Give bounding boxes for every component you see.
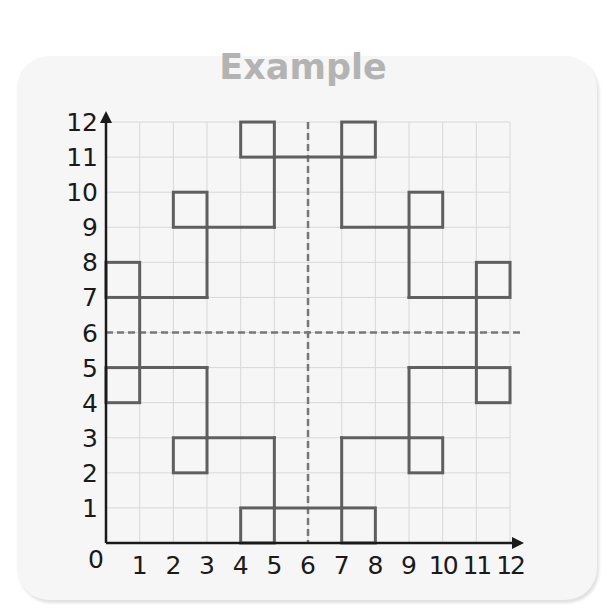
shape-square (476, 262, 510, 297)
x-tick-label: 5 (266, 551, 282, 580)
y-tick-label: 10 (66, 178, 98, 207)
shape-square (106, 262, 140, 297)
y-tick-label: 2 (82, 459, 98, 488)
x-tick-label: 12 (496, 551, 524, 580)
y-tick-label: 11 (66, 143, 98, 172)
shape-square (342, 508, 376, 543)
shape-square (409, 192, 443, 227)
shape-square (241, 122, 275, 157)
x-tick-label: 6 (300, 551, 316, 580)
y-tick-label: 12 (66, 108, 98, 137)
x-tick-label: 9 (401, 551, 417, 580)
shape-square (173, 192, 207, 227)
shape-square (409, 438, 443, 473)
y-tick-label: 5 (82, 354, 98, 383)
shape-square (476, 368, 510, 403)
x-tick-label: 11 (462, 551, 490, 580)
x-tick-label: 4 (233, 551, 249, 580)
origin-label: 0 (88, 545, 104, 574)
x-tick-label: 1 (132, 551, 148, 580)
y-tick-label: 9 (82, 213, 98, 242)
y-axis-arrow-icon (100, 111, 112, 123)
y-tick-label: 4 (82, 389, 98, 418)
shape-square (106, 368, 140, 403)
x-tick-label: 7 (334, 551, 350, 580)
x-axis-arrow-icon (512, 537, 524, 549)
y-tick-label: 3 (82, 424, 98, 453)
coordinate-grid: 0123456789101112123456789101112 (0, 0, 606, 612)
y-tick-label: 6 (82, 319, 98, 348)
shape-square (342, 122, 376, 157)
y-tick-label: 7 (82, 283, 98, 312)
y-tick-label: 1 (82, 494, 98, 523)
x-tick-label: 8 (367, 551, 383, 580)
x-tick-label: 3 (199, 551, 215, 580)
shape-square (173, 438, 207, 473)
y-tick-label: 8 (82, 248, 98, 277)
x-tick-label: 10 (429, 551, 458, 580)
x-tick-label: 2 (165, 551, 181, 580)
shape-square (241, 508, 275, 543)
